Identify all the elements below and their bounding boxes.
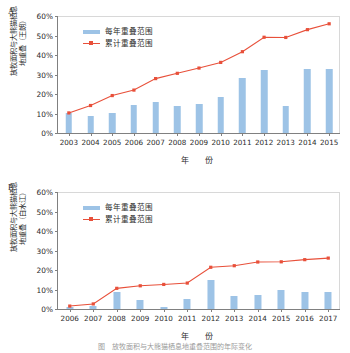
x-axis-tick-mark [156, 133, 157, 136]
line-data-point [303, 258, 306, 261]
x-axis-tick-mark [91, 133, 92, 136]
line-data-point [115, 287, 118, 290]
x-axis-tick-mark [221, 133, 222, 136]
panel-a-legend-bar-label: 每年重叠范围 [105, 26, 153, 38]
line-data-point [132, 89, 135, 92]
panel-a-x-axis-title: 年 份 [57, 154, 340, 165]
x-axis-tick-mark [117, 309, 118, 312]
x-axis-tick-label: 2011 [233, 138, 251, 147]
x-axis-tick-mark [329, 133, 330, 136]
x-axis-tick-mark [177, 133, 178, 136]
line-data-point [233, 264, 236, 267]
panel-b-legend-item-bar: 每年重叠范围 [83, 202, 153, 214]
x-axis-tick-mark [69, 133, 70, 136]
panel-a-y-axis-title: 放牧面积与大熊猫栖息 地重叠（王朗） [9, 0, 27, 101]
line-data-point [209, 266, 212, 269]
x-axis-tick-mark [234, 309, 235, 312]
x-axis-tick-label: 2012 [202, 314, 220, 323]
x-axis-tick-mark [242, 133, 243, 136]
line-data-point [92, 302, 95, 305]
x-axis-tick-label: 2015 [320, 138, 338, 147]
line-marker-icon [83, 40, 100, 47]
line-data-point [327, 257, 330, 260]
x-axis-tick-label: 2010 [212, 138, 230, 147]
x-axis-tick-label: 2011 [178, 314, 196, 323]
line-data-point [111, 94, 114, 97]
x-axis-tick-label: 2017 [319, 314, 337, 323]
line-data-point [154, 77, 157, 80]
panel-b-legend-bar-label: 每年重叠范围 [105, 202, 153, 214]
panel-b: B. 放牧面积与大熊猫栖息 地重叠（白水江） 0%10%20%30%40%50%… [0, 178, 350, 350]
x-axis-tick-mark [140, 309, 141, 312]
x-axis-tick-label: 2014 [298, 138, 316, 147]
x-axis-tick-mark [187, 309, 188, 312]
x-axis-tick-label: 2007 [146, 138, 164, 147]
figure-caption: 图 放牧面积与大熊猫栖息地重叠范围的年际变化 [0, 341, 350, 351]
line-data-point [68, 304, 71, 307]
line-data-point [197, 66, 200, 69]
x-axis-tick-mark [164, 309, 165, 312]
x-axis-tick-label: 2009 [190, 138, 208, 147]
x-axis-tick-mark [199, 133, 200, 136]
x-axis-tick-mark [134, 133, 135, 136]
x-axis-tick-label: 2014 [249, 314, 267, 323]
panel-a-legend-line-label: 累计重叠范围 [105, 38, 153, 50]
line-data-point [162, 283, 165, 286]
panel-b-y-axis-title: 放牧面积与大熊猫栖息 地重叠（白水江） [9, 157, 27, 277]
line-data-point [262, 36, 265, 39]
panel-b-legend: 每年重叠范围 累计重叠范围 [78, 200, 159, 228]
x-axis-tick-mark [305, 309, 306, 312]
line-data-point [256, 260, 259, 263]
x-axis-tick-label: 2005 [103, 138, 121, 147]
y-axis-tick-mark [55, 309, 58, 310]
line-data-point [186, 281, 189, 284]
x-axis-tick-label: 2006 [61, 314, 79, 323]
x-axis-tick-mark [112, 133, 113, 136]
line-data-point [139, 284, 142, 287]
x-axis-tick-mark [211, 309, 212, 312]
x-axis-tick-label: 2013 [277, 138, 295, 147]
line-data-point [280, 260, 283, 263]
line-data-point [284, 36, 287, 39]
panel-b-legend-item-line: 累计重叠范围 [83, 214, 153, 226]
x-axis-tick-mark [264, 133, 265, 136]
x-axis-tick-mark [328, 309, 329, 312]
line-data-point [219, 61, 222, 64]
panel-a-legend-item-line: 累计重叠范围 [83, 38, 153, 50]
x-axis-tick-label: 2004 [81, 138, 99, 147]
line-data-point [306, 28, 309, 31]
x-axis-tick-label: 2016 [296, 314, 314, 323]
x-axis-tick-label: 2003 [60, 138, 78, 147]
x-axis-tick-mark [307, 133, 308, 136]
line-data-point [67, 111, 70, 114]
x-axis-tick-label: 2009 [131, 314, 149, 323]
x-axis-tick-label: 2007 [84, 314, 102, 323]
line-data-point [176, 72, 179, 75]
bar-swatch-icon [83, 206, 100, 210]
x-axis-tick-mark [286, 133, 287, 136]
panel-a-legend-item-bar: 每年重叠范围 [83, 26, 153, 38]
line-marker-icon [83, 216, 100, 223]
y-axis-tick-mark [55, 133, 58, 134]
bar-swatch-icon [83, 30, 100, 34]
panel-b-x-axis-title: 年 份 [57, 330, 340, 341]
panel-a-legend: 每年重叠范围 累计重叠范围 [78, 24, 159, 52]
x-axis-tick-label: 2006 [125, 138, 143, 147]
x-axis-tick-mark [93, 309, 94, 312]
line-data-point [89, 104, 92, 107]
x-axis-tick-label: 2015 [272, 314, 290, 323]
x-axis-tick-label: 2012 [255, 138, 273, 147]
x-axis-tick-mark [258, 309, 259, 312]
x-axis-tick-label: 2010 [155, 314, 173, 323]
panel-b-legend-line-label: 累计重叠范围 [105, 214, 153, 226]
line-data-point [328, 22, 331, 25]
x-axis-tick-mark [70, 309, 71, 312]
x-axis-tick-label: 2008 [108, 314, 126, 323]
x-axis-tick-mark [281, 309, 282, 312]
x-axis-tick-label: 2013 [225, 314, 243, 323]
line-data-point [241, 50, 244, 53]
figure-container: A. 放牧面积与大熊猫栖息 地重叠（王朗） 0%10%20%30%40%50%6… [0, 0, 350, 353]
panel-a: A. 放牧面积与大熊猫栖息 地重叠（王朗） 0%10%20%30%40%50%6… [0, 2, 350, 174]
x-axis-tick-label: 2008 [168, 138, 186, 147]
